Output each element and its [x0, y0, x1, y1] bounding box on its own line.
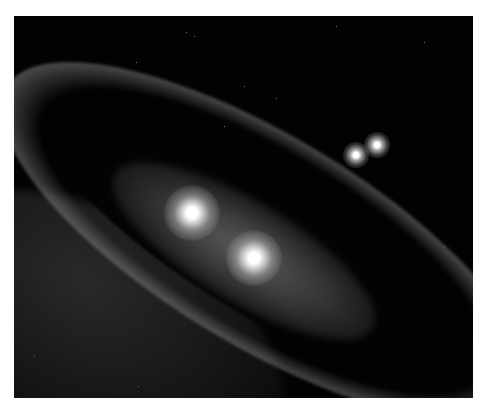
- space-image: [14, 16, 473, 398]
- distant-star-b: [364, 132, 390, 158]
- central-star-a: [164, 185, 220, 241]
- central-star-b: [226, 230, 282, 286]
- debris-disk: [14, 16, 473, 398]
